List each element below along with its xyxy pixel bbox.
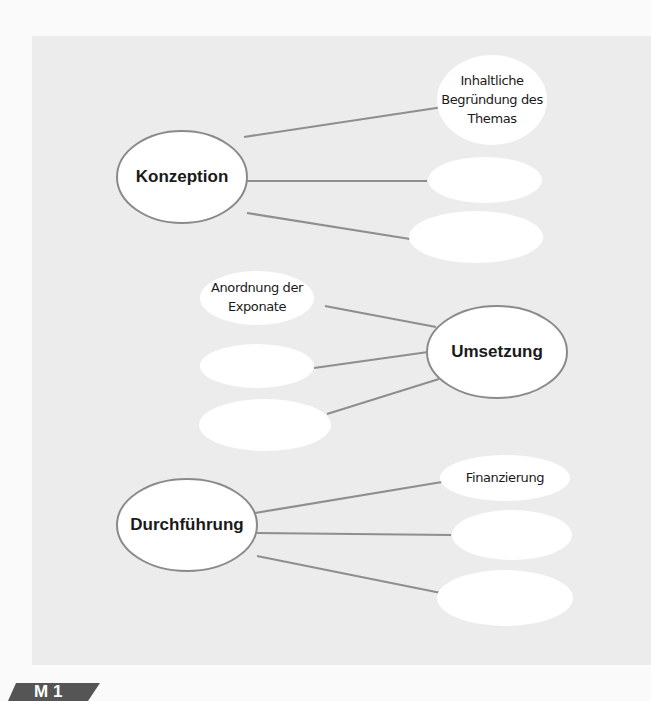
sub-node-label: InhaltlicheBegründung desThemas (441, 72, 543, 129)
connector-line (314, 352, 428, 368)
blank-sub-node[interactable] (428, 157, 542, 203)
sub-node-label-line: Finanzierung (466, 469, 544, 488)
blank-sub-node[interactable] (409, 211, 543, 263)
sub-node-label: Anordnung derExponate (211, 279, 303, 317)
blank-sub-node[interactable] (200, 344, 314, 388)
blank-sub-node[interactable] (452, 510, 572, 560)
connector-line (255, 482, 442, 513)
material-tag-label: M 1 (34, 682, 62, 701)
sub-node-label-line: Anordnung der (211, 279, 303, 298)
mind-map (0, 0, 651, 701)
main-node-label: Konzeption (136, 166, 229, 188)
sub-node-label-line: Begründung des (441, 91, 543, 110)
blank-sub-node[interactable] (199, 399, 331, 451)
sub-node-label-line: Themas (441, 109, 543, 128)
connector-line (257, 533, 451, 535)
main-node-label: Durchführung (130, 514, 243, 536)
blank-sub-node[interactable] (437, 570, 573, 626)
connector-line (247, 213, 410, 239)
connector-line (257, 556, 441, 593)
connector-line (325, 306, 436, 327)
connector-line (244, 107, 443, 137)
sub-node-label-line: Inhaltliche (441, 72, 543, 91)
sub-node-label: Finanzierung (466, 469, 544, 488)
sub-node-label-line: Exponate (211, 298, 303, 317)
main-node-label: Umsetzung (451, 341, 543, 363)
connector-line (327, 379, 439, 414)
